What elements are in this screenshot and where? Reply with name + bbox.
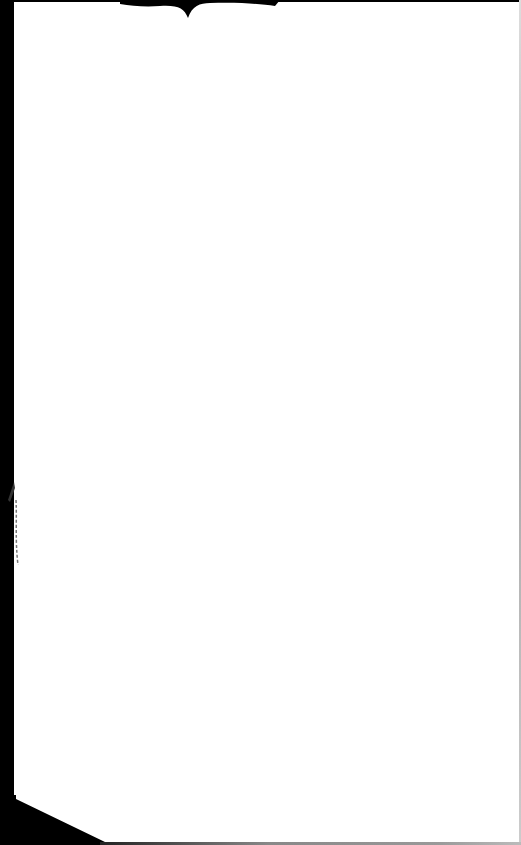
- scan-border-left: [0, 0, 14, 845]
- scan-border-bottom-corner: [0, 795, 110, 845]
- blank-scanned-page: [0, 0, 521, 845]
- scan-artifact-left-mark: [4, 480, 24, 570]
- scan-artifact-top-tear: [120, 0, 280, 20]
